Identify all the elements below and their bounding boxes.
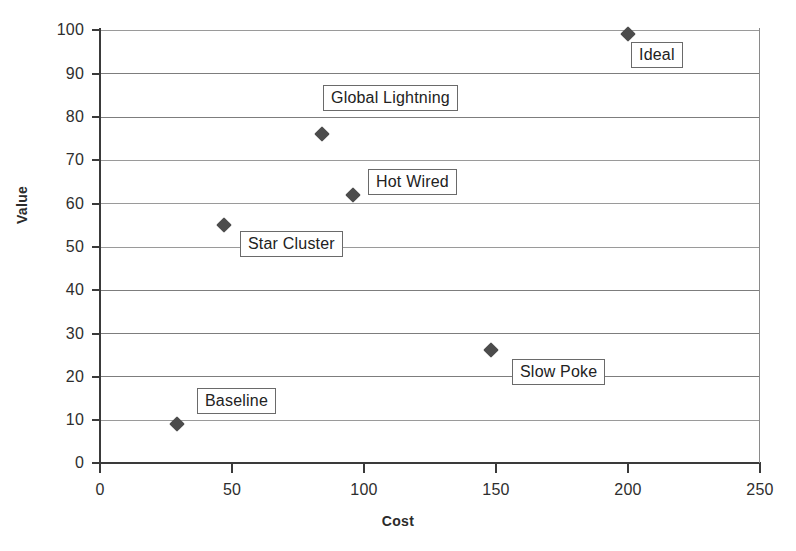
x-tick-200 [627, 464, 629, 473]
y-tick-100 [92, 29, 100, 31]
y-tick-label-10: 10 [66, 411, 84, 429]
data-point-star-cluster[interactable] [216, 217, 232, 233]
y-tick-label-90: 90 [66, 65, 84, 83]
y-tick-60 [92, 203, 100, 205]
y-tick-label-50: 50 [66, 238, 84, 256]
y-tick-label-30: 30 [66, 325, 84, 343]
gridline-100 [100, 30, 760, 31]
gridline-60 [100, 203, 760, 204]
point-label-baseline: Baseline [197, 388, 276, 414]
y-tick-40 [92, 289, 100, 291]
point-label-star-cluster: Star Cluster [240, 231, 343, 257]
data-point-ideal[interactable] [620, 26, 636, 42]
x-tick-0 [99, 464, 101, 473]
gridline-90 [100, 73, 760, 74]
gridline-10 [100, 420, 760, 421]
x-tick-250 [759, 464, 761, 473]
plot-right-border [759, 28, 760, 463]
data-point-baseline[interactable] [169, 416, 185, 432]
point-label-global-lightning: Global Lightning [323, 85, 458, 111]
x-tick-label-150: 150 [482, 481, 509, 499]
y-tick-10 [92, 419, 100, 421]
gridline-80 [100, 117, 760, 118]
x-tick-label-200: 200 [614, 481, 641, 499]
gridline-20 [100, 376, 760, 377]
y-tick-label-70: 70 [66, 151, 84, 169]
y-tick-label-80: 80 [66, 108, 84, 126]
y-tick-20 [92, 376, 100, 378]
y-tick-70 [92, 159, 100, 161]
point-label-slow-poke: Slow Poke [512, 359, 605, 385]
gridline-70 [100, 160, 760, 161]
x-tick-label-250: 250 [746, 481, 773, 499]
y-tick-30 [92, 333, 100, 335]
x-tick-50 [231, 464, 233, 473]
gridline-30 [100, 333, 760, 334]
y-tick-label-20: 20 [66, 368, 84, 386]
data-point-hot-wired[interactable] [345, 187, 361, 203]
x-tick-150 [495, 464, 497, 473]
y-tick-50 [92, 246, 100, 248]
point-label-hot-wired: Hot Wired [368, 169, 457, 195]
scatter-chart: 100 90 80 70 60 50 40 30 20 10 0 0 50 10… [0, 0, 796, 551]
gridline-50 [100, 247, 760, 248]
data-point-global-lightning[interactable] [314, 126, 330, 142]
x-tick-label-100: 100 [350, 481, 377, 499]
y-tick-80 [92, 116, 100, 118]
x-axis-line [99, 462, 761, 464]
y-tick-label-60: 60 [66, 195, 84, 213]
x-tick-label-50: 50 [223, 481, 241, 499]
y-tick-label-100: 100 [57, 21, 84, 39]
x-tick-label-0: 0 [95, 481, 104, 499]
y-tick-label-0: 0 [75, 454, 84, 472]
y-axis-title: Value [14, 196, 30, 224]
point-label-ideal: Ideal [631, 42, 683, 68]
y-tick-label-40: 40 [66, 281, 84, 299]
data-point-slow-poke[interactable] [483, 342, 499, 358]
x-axis-title: Cost [0, 513, 796, 529]
y-tick-90 [92, 73, 100, 75]
x-tick-100 [363, 464, 365, 473]
gridline-40 [100, 290, 760, 291]
